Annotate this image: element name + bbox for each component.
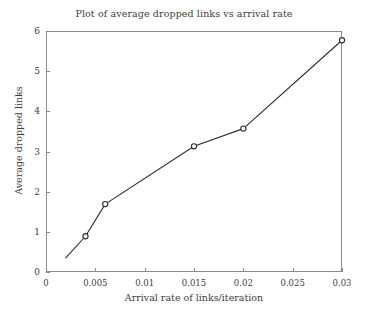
plot-data-layer <box>46 31 342 272</box>
x-tick-mark <box>95 268 96 272</box>
data-point-marker <box>241 126 246 131</box>
y-tick-label: 0 <box>12 267 40 277</box>
y-tick-label: 6 <box>12 26 40 36</box>
y-tick-mark <box>46 152 50 153</box>
y-tick-mark <box>46 111 50 112</box>
x-tick-label: 0.025 <box>268 278 318 288</box>
data-line-series-1 <box>66 40 342 258</box>
y-axis-title: Average dropped links <box>13 61 24 221</box>
x-axis-title: Arrival rate of links/iteration <box>46 292 342 303</box>
x-tick-label: 0.02 <box>218 278 268 288</box>
x-tick-label: 0 <box>21 278 71 288</box>
chart-figure: Plot of average dropped links vs arrival… <box>0 0 368 315</box>
chart-title: Plot of average dropped links vs arrival… <box>0 8 368 19</box>
data-point-marker <box>103 202 108 207</box>
x-tick-mark <box>194 268 195 272</box>
data-point-marker <box>83 234 88 239</box>
x-tick-mark <box>145 268 146 272</box>
data-point-markers <box>83 38 345 239</box>
y-tick-mark <box>46 192 50 193</box>
data-point-marker <box>191 144 196 149</box>
y-tick-label: 1 <box>12 227 40 237</box>
x-tick-label: 0.03 <box>317 278 367 288</box>
y-tick-mark <box>46 71 50 72</box>
y-tick-mark <box>46 272 50 273</box>
x-tick-label: 0.005 <box>70 278 120 288</box>
y-tick-mark <box>46 31 50 32</box>
x-tick-label: 0.01 <box>120 278 170 288</box>
x-tick-mark <box>342 268 343 272</box>
data-point-marker <box>339 38 344 43</box>
x-tick-mark <box>293 268 294 272</box>
x-tick-label: 0.015 <box>169 278 219 288</box>
y-tick-mark <box>46 232 50 233</box>
x-tick-mark <box>243 268 244 272</box>
x-tick-mark <box>46 268 47 272</box>
